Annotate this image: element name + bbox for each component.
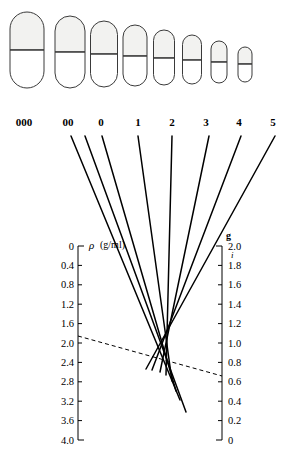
capsule-cap	[211, 41, 227, 62]
capsule-3	[183, 35, 202, 84]
capsule-cap	[183, 35, 202, 60]
capsule-cap	[154, 30, 175, 58]
capsule-body	[211, 62, 227, 83]
capsule-size-label-1: 1	[135, 116, 141, 128]
capsule-5	[238, 47, 252, 82]
capsule-cap	[238, 47, 252, 64]
density-axis-tick-label: 0.4	[61, 260, 75, 271]
fill-weight-axis-tick-label: 1.0	[228, 338, 241, 349]
fill-weight-axis-tick-label: 0.2	[228, 415, 241, 426]
capsule-size-label-4: 4	[236, 116, 242, 128]
fill-weight-axis-tick-label: 0.6	[228, 376, 241, 387]
density-axis-tick-label: 0	[69, 241, 74, 252]
capsule-size-label-0: 0	[98, 116, 104, 128]
capsule-size-label-00: 00	[63, 116, 75, 128]
capsule-size-label-2: 2	[169, 116, 175, 128]
density-axis-tick-label: 3.6	[61, 415, 74, 426]
fill-weight-axis-tick-label: 1.6	[228, 279, 241, 290]
capsule-00	[55, 16, 85, 88]
capsule-cap	[10, 12, 44, 50]
fill-weight-axis-tick-label: 0.4	[228, 396, 242, 407]
fill-weight-axis-tick-label: 1.2	[228, 318, 241, 329]
capsule-4	[211, 41, 227, 83]
density-axis-tick-label: 3.2	[61, 396, 74, 407]
fill-weight-axis-tick-label: 0.8	[228, 357, 241, 368]
fill-weight-axis-tick-label: 1.8	[228, 260, 241, 271]
fill-weight-axis-tick-label: 2.0	[228, 241, 241, 252]
capsule-size-label-000: 000	[16, 116, 33, 128]
capsule-cap	[55, 16, 85, 52]
density-units-label: (g/ml)	[100, 239, 125, 251]
density-axis-tick-label: 2.8	[61, 376, 74, 387]
capsule-body	[123, 56, 147, 86]
density-axis-tick-label: 2.0	[61, 338, 74, 349]
density-axis-tick-label: 0.8	[61, 279, 74, 290]
capsule-body	[55, 52, 85, 88]
capsule-body	[154, 58, 175, 85]
capsule-0	[91, 21, 118, 87]
capsule-cap	[123, 25, 147, 56]
capsule-body	[91, 54, 118, 87]
fill-weight-axis-tick-label: 1.4	[228, 299, 242, 310]
gram-units-label: g	[226, 230, 231, 241]
capsule-size-label-3: 3	[203, 116, 209, 128]
fill-weight-axis-tick-label: 0	[228, 435, 233, 446]
capsule-1	[123, 25, 147, 86]
density-axis-tick-label: 2.4	[61, 357, 75, 368]
rho-symbol-label: ρ	[88, 239, 94, 251]
capsule-body	[10, 50, 44, 88]
capsule-body	[183, 60, 202, 84]
capsule-000	[10, 12, 44, 88]
capsule-nomogram-figure: 00000012345 00.40.81.21.62.02.42.83.23.6…	[0, 0, 294, 463]
density-axis-tick-label: 1.6	[61, 318, 74, 329]
density-axis-tick-label: 4.0	[61, 435, 74, 446]
capsule-2	[154, 30, 175, 85]
capsule-size-label-5: 5	[270, 116, 276, 128]
capsule-body	[238, 64, 252, 82]
figure-canvas: 00000012345 00.40.81.21.62.02.42.83.23.6…	[0, 0, 294, 463]
density-axis-tick-label: 1.2	[61, 299, 74, 310]
capsule-cap	[91, 21, 118, 54]
